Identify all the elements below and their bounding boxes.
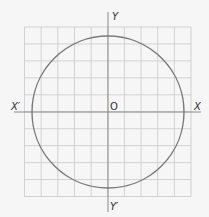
coordinate-diagram: Y Y′ X′ X O [0,0,209,217]
label-y: Y [112,11,119,22]
label-y-prime: Y′ [110,201,119,212]
label-x: X [193,101,202,112]
label-origin: O [110,101,118,112]
label-x-prime: X′ [10,101,21,112]
